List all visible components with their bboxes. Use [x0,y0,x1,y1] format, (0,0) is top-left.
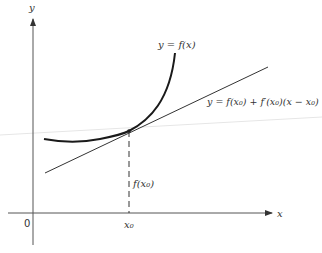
f-x0-label: f(x₀) [132,178,154,189]
tangent-line-diagram: y x 0 y = f(x) y = f(x₀) + f′(x₀)(x − x₀… [0,0,322,253]
scan-artifact-line [0,117,322,135]
x0-label: x₀ [124,219,134,230]
function-curve [44,53,175,142]
tangent-equation-label: y = f(x₀) + f′(x₀)(x − x₀) [206,96,319,107]
x-axis-label: x [277,208,283,219]
curve-label: y = f(x) [157,39,196,50]
tangent-point [127,129,131,133]
tangent-line [45,67,268,173]
y-axis-label: y [28,2,35,13]
origin-label: 0 [24,218,30,229]
